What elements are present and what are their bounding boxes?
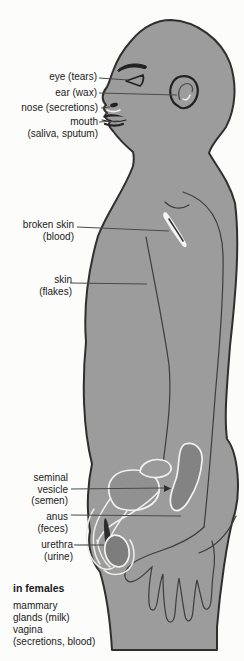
label-seminal-vesicle: seminal vesicle (semen) (31, 472, 68, 507)
label-broken-skin: broken skin (blood) (23, 219, 74, 242)
females-note-vagina: vagina (secretions, blood) (13, 624, 95, 647)
label-skin: skin (flakes) (39, 274, 72, 297)
label-mouth: mouth (saliva, sputum) (27, 116, 98, 139)
label-eye: eye (tears) (49, 71, 97, 83)
females-note-heading: in females (13, 583, 64, 595)
body-figure (0, 0, 244, 661)
label-urethra: urethra (urine) (41, 539, 73, 562)
females-note-mammary: mammary glands (milk) (13, 600, 70, 623)
label-anus: anus (feces) (37, 511, 68, 534)
label-nose: nose (secretions) (21, 102, 98, 114)
anatomy-diagram: eye (tears) ear (wax) nose (secretions) … (0, 0, 244, 661)
label-ear: ear (wax) (55, 87, 97, 99)
